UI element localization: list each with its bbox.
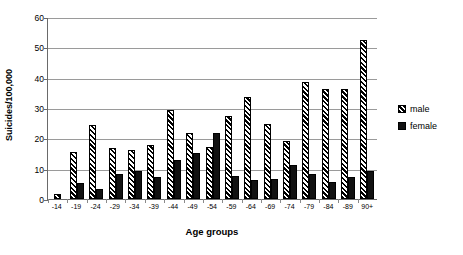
bar-male: [322, 89, 329, 199]
bar-male: [264, 124, 271, 199]
bar-male: [147, 145, 154, 199]
bar-male: [167, 110, 174, 199]
bar-group: [222, 18, 241, 199]
bar-female: [213, 133, 220, 199]
x-axis-tick-label: -29: [105, 203, 124, 219]
bar-group: [164, 18, 183, 199]
y-axis-tick-label: 40: [24, 74, 44, 84]
plot-area: [47, 18, 377, 200]
bar-group: [48, 18, 67, 199]
bar-male: [360, 40, 367, 199]
bar-female: [77, 183, 84, 199]
bar-male: [225, 116, 232, 199]
bar-male: [341, 89, 348, 199]
y-axis-tick-labels: 0102030405060: [18, 0, 44, 210]
bar-male: [109, 148, 116, 199]
bar-male: [302, 82, 309, 199]
x-axis-title: Age groups: [47, 226, 377, 237]
bar-group: [358, 18, 377, 199]
x-axis-tick-label: -89: [338, 203, 357, 219]
x-axis-tick-label: -49: [183, 203, 202, 219]
bar-female: [251, 180, 258, 199]
bar-group: [261, 18, 280, 199]
y-axis-tick-label: 60: [24, 13, 44, 23]
bar-female: [174, 160, 181, 199]
y-axis-tick-label: 0: [24, 195, 44, 205]
bar-group: [125, 18, 144, 199]
x-axis-tick-label: -79: [299, 203, 318, 219]
x-axis-tick-label: -39: [144, 203, 163, 219]
bar-female: [290, 165, 297, 199]
bar-female: [271, 179, 278, 199]
bar-male: [89, 125, 96, 199]
solid-black-swatch-icon: [398, 122, 406, 130]
bar-female: [232, 176, 239, 199]
legend-item-male: male: [398, 104, 437, 114]
bar-group: [300, 18, 319, 199]
bar-group: [338, 18, 357, 199]
y-axis-tick-label: 30: [24, 104, 44, 114]
bar-male: [54, 194, 61, 199]
x-axis-tick-label: -54: [202, 203, 221, 219]
y-axis-tick-label: 20: [24, 134, 44, 144]
bar-group: [67, 18, 86, 199]
x-axis-tick-label: -19: [66, 203, 85, 219]
x-axis-tick-label: -44: [163, 203, 182, 219]
bar-female: [309, 174, 316, 199]
y-axis-tick-label: 10: [24, 165, 44, 175]
bar-group: [184, 18, 203, 199]
x-axis-tick-labels: -14-19-24-29-34-39-44-49-54-59-64-69-74-…: [47, 203, 377, 219]
legend-item-label: male: [410, 104, 430, 114]
bar-group: [106, 18, 125, 199]
bar-group: [87, 18, 106, 199]
bar-male: [206, 147, 213, 199]
y-axis-title: Suicides/100,000: [2, 0, 16, 210]
bar-female: [348, 177, 355, 199]
bar-group: [319, 18, 338, 199]
bar-male: [128, 150, 135, 199]
bar-group: [280, 18, 299, 199]
bar-male: [70, 152, 77, 199]
legend: male female: [398, 104, 437, 131]
x-axis-tick-label: -34: [125, 203, 144, 219]
bar-male: [244, 97, 251, 199]
bar-group: [203, 18, 222, 199]
hatched-swatch-icon: [398, 105, 406, 113]
x-axis-tick-label: -24: [86, 203, 105, 219]
bar-groups: [48, 18, 377, 199]
bar-female: [96, 189, 103, 199]
bar-female: [154, 177, 161, 199]
bar-group: [145, 18, 164, 199]
x-axis-tick-label: 90+: [358, 203, 377, 219]
legend-item-female: female: [398, 121, 437, 131]
bar-female: [116, 174, 123, 199]
bar-male: [186, 133, 193, 199]
x-axis-tick-label: -84: [319, 203, 338, 219]
x-axis-tick-label: -69: [260, 203, 279, 219]
bar-male: [283, 141, 290, 199]
x-axis-tick-label: -59: [222, 203, 241, 219]
bar-chart: Suicides/100,000 0102030405060 -14-19-24…: [0, 0, 463, 255]
bar-female: [193, 153, 200, 199]
y-axis-tick-label: 50: [24, 43, 44, 53]
bar-female: [329, 182, 336, 199]
bar-group: [242, 18, 261, 199]
bar-female: [135, 171, 142, 200]
x-axis-tick-label: -64: [241, 203, 260, 219]
bar-female: [367, 171, 374, 199]
x-axis-tick-label: -74: [280, 203, 299, 219]
legend-item-label: female: [410, 121, 437, 131]
x-axis-tick-label: -14: [47, 203, 66, 219]
